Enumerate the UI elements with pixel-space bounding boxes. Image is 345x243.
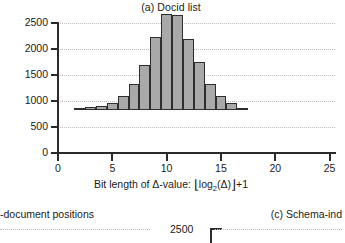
bar: [161, 14, 172, 110]
x-tick-10: [166, 154, 168, 161]
y-tick-label-2000: 2000: [0, 42, 48, 54]
y-tick-label-1500: 1500: [0, 68, 48, 80]
x-tick-label-15: 15: [206, 162, 236, 174]
x-tick-20: [274, 154, 276, 161]
y-tick-label-1000: 1000: [0, 94, 48, 106]
bar: [74, 108, 85, 110]
gridline-2500: [58, 23, 335, 24]
bar: [139, 65, 150, 110]
floor-open-bracket: ⌊: [194, 177, 199, 192]
bar: [183, 39, 194, 110]
floor-close-bracket: ⌋: [231, 177, 236, 192]
x-axis-title-prefix: Bit length of: [94, 178, 152, 190]
bar: [172, 15, 183, 110]
cropped-gridline-left: [0, 229, 150, 230]
cropped-caption-left: -document positions: [0, 208, 94, 220]
x-axis-title: Bit length of Δ-value: ⌊log2(Δ)⌋+1: [0, 178, 342, 193]
bar: [194, 62, 205, 110]
x-tick-25: [329, 154, 331, 161]
cropped-axis-corner: [210, 228, 222, 243]
x-axis-title-suffix: +1: [236, 178, 248, 190]
y-tick-label-2500: 2500: [0, 16, 48, 28]
x-tick-5: [111, 154, 113, 161]
x-axis-title-delta: Δ-value:: [152, 178, 191, 190]
y-axis-line: [57, 22, 59, 154]
bar: [129, 84, 140, 110]
log-text: log: [199, 178, 213, 190]
bar: [205, 84, 216, 110]
x-tick-label-25: 25: [315, 162, 345, 174]
x-axis-line: [57, 152, 336, 154]
bar: [216, 96, 227, 110]
chart-docid-list: (a) Docid list 05001000150020002500 0510…: [0, 0, 342, 198]
bar: [150, 37, 161, 110]
gridline-2000: [58, 49, 335, 50]
chart-title: (a) Docid list: [0, 1, 342, 13]
y-tick-2000: [51, 48, 58, 50]
x-tick-15: [220, 154, 222, 161]
bar: [107, 103, 118, 110]
x-tick-0: [57, 154, 59, 161]
bar: [226, 103, 237, 110]
cropped-caption-right: (c) Schema-ind: [271, 208, 342, 220]
x-tick-label-20: 20: [260, 162, 290, 174]
y-tick-1500: [51, 74, 58, 76]
bar: [237, 108, 248, 110]
cropped-y-axis-label: 2500: [170, 223, 193, 235]
y-tick-label-0: 0: [0, 146, 48, 158]
bar: [96, 106, 107, 110]
bar: [85, 107, 96, 110]
bar: [118, 96, 129, 110]
y-tick-1000: [51, 100, 58, 102]
log-argument: (Δ): [217, 178, 231, 190]
gridline-500: [58, 127, 335, 128]
y-tick-500: [51, 126, 58, 128]
cropped-gridline-right: [215, 229, 342, 230]
x-tick-label-5: 5: [97, 162, 127, 174]
x-tick-label-0: 0: [43, 162, 73, 174]
y-tick-2500: [51, 22, 58, 24]
y-tick-label-500: 500: [0, 120, 48, 132]
x-tick-label-10: 10: [152, 162, 182, 174]
